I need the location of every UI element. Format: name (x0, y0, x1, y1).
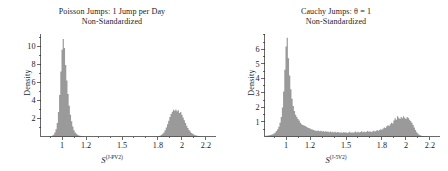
svg-text:2.2: 2.2 (425, 141, 435, 150)
svg-text:2: 2 (31, 114, 35, 123)
plot-area-cauchy: 12345611.21.51.822.2 (224, 0, 448, 171)
svg-text:5: 5 (255, 60, 259, 69)
svg-text:1.5: 1.5 (341, 141, 351, 150)
svg-text:1: 1 (60, 141, 64, 150)
x-axis-label-superscript: (J-PV2) (106, 154, 123, 160)
svg-text:2: 2 (255, 103, 259, 112)
svg-text:1: 1 (255, 118, 259, 127)
svg-text:1.8: 1.8 (153, 141, 163, 150)
x-axis-label-cauchy: S(J-5V2) (224, 154, 448, 165)
svg-text:1: 1 (284, 141, 288, 150)
svg-text:2: 2 (404, 141, 408, 150)
svg-text:4: 4 (31, 96, 35, 105)
svg-text:1.2: 1.2 (81, 141, 91, 150)
svg-text:4: 4 (255, 74, 259, 83)
svg-text:6: 6 (31, 78, 35, 87)
svg-text:8: 8 (31, 60, 35, 69)
x-axis-label-superscript: (J-5V2) (330, 154, 347, 160)
x-axis-label-poisson: S(J-PV2) (0, 154, 224, 165)
panel-poisson-jumps: Poisson Jumps: 1 Jump per Day Non-Standa… (0, 0, 224, 171)
svg-text:1.5: 1.5 (117, 141, 127, 150)
figure-two-panel-density-plots: Poisson Jumps: 1 Jump per Day Non-Standa… (0, 0, 448, 171)
svg-text:1.2: 1.2 (305, 141, 315, 150)
svg-text:1.8: 1.8 (377, 141, 387, 150)
svg-text:3: 3 (255, 89, 259, 98)
panel-cauchy-jumps: Cauchy Jumps: θ = 1 Non-Standardized Den… (224, 0, 448, 171)
svg-text:2.2: 2.2 (201, 141, 211, 150)
svg-text:6: 6 (255, 45, 259, 54)
svg-text:2: 2 (180, 141, 184, 150)
plot-area-poisson: 24681011.21.51.822.2 (0, 0, 224, 171)
svg-text:10: 10 (27, 42, 35, 51)
